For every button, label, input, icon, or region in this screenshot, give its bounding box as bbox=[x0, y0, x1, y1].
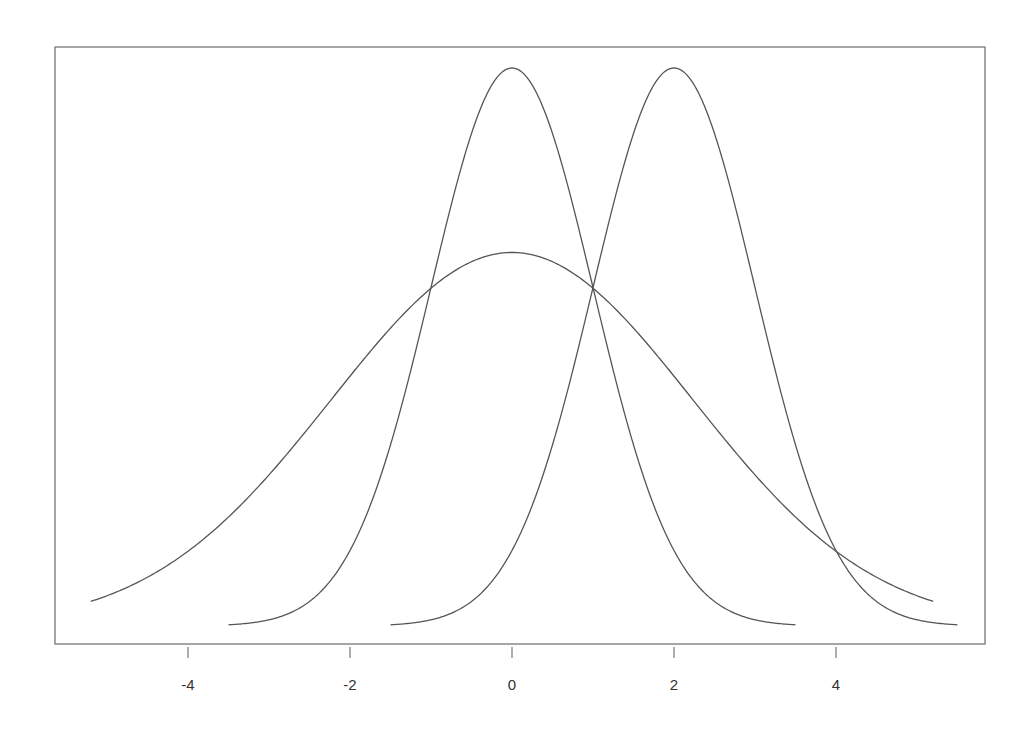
x-axis: -4-2024 bbox=[181, 647, 840, 693]
x-tick-label: -2 bbox=[343, 676, 356, 693]
x-tick-label: 2 bbox=[670, 676, 678, 693]
plot-frame bbox=[55, 47, 985, 644]
x-tick-label: -4 bbox=[181, 676, 194, 693]
x-tick-label: 0 bbox=[508, 676, 516, 693]
curve-0 bbox=[91, 252, 933, 601]
curves-group bbox=[91, 68, 958, 625]
curve-2 bbox=[391, 68, 958, 625]
x-tick-label: 4 bbox=[832, 676, 840, 693]
chart-canvas: -4-2024 bbox=[0, 0, 1030, 731]
curve-1 bbox=[229, 68, 796, 625]
